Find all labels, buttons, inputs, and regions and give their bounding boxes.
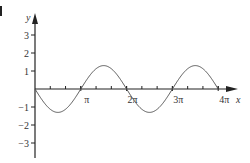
y-tick-label: 2 [24, 48, 29, 59]
y-axis-arrow-icon [32, 13, 38, 24]
y-tick-label: −1 [18, 102, 29, 113]
x-tick-label: π [84, 94, 89, 105]
y-axis-label: y [25, 12, 31, 23]
x-axis-arrow-icon [226, 86, 238, 92]
sine-chart: 321−1−2−3π2π3π4π x y [0, 0, 250, 163]
x-tick-label: 4π [219, 94, 229, 105]
y-tick-label: −2 [18, 120, 29, 131]
axes [32, 13, 238, 158]
x-axis-label: x [235, 94, 241, 105]
x-tick-label: 3π [173, 94, 183, 105]
y-tick-label: 3 [24, 30, 29, 41]
y-tick-label: 1 [24, 66, 29, 77]
y-tick-label: −3 [18, 138, 29, 149]
